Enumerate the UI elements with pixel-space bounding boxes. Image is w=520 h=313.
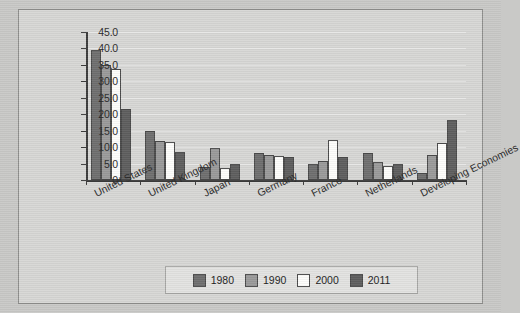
legend-item[interactable]: 1990 <box>245 274 286 287</box>
legend-label: 1990 <box>263 274 286 286</box>
bar-group <box>254 32 294 180</box>
legend-item[interactable]: 2000 <box>297 274 338 287</box>
x-axis-category-labels: United StatesUnited KingdomJapanGermanyF… <box>86 186 481 266</box>
bar-group <box>308 32 348 180</box>
y-tick-label: 40.0 <box>98 42 118 54</box>
legend-item[interactable]: 1980 <box>193 274 234 287</box>
bar <box>427 155 437 180</box>
bar <box>155 141 165 180</box>
chart-legend: 1980199020002011 <box>165 266 418 294</box>
bar-group <box>145 32 185 180</box>
y-tick-label: 20.0 <box>98 108 118 120</box>
legend-item[interactable]: 2011 <box>350 274 391 287</box>
y-tick-label: 35.0 <box>98 59 118 71</box>
y-tick-label: 15.0 <box>98 125 118 137</box>
bar <box>363 153 373 180</box>
y-tick-label: 45.0 <box>98 26 118 38</box>
bar <box>373 162 383 180</box>
legend-swatch <box>193 274 206 287</box>
bar <box>264 155 274 180</box>
x-tick-mark <box>466 180 467 185</box>
plot-area: 05.010.015.020.025.030.035.040.045.0 <box>86 32 466 180</box>
y-tick-label: 10.0 <box>98 141 118 153</box>
y-tick-label: 25.0 <box>98 92 118 104</box>
bar-group <box>417 32 457 180</box>
y-tick-label: 30.0 <box>98 75 118 87</box>
legend-swatch <box>350 274 363 287</box>
bar <box>318 161 328 180</box>
bar-group <box>363 32 403 180</box>
chart-figure: 05.010.015.020.025.030.035.040.045.0 Uni… <box>18 9 483 304</box>
legend-label: 2000 <box>315 274 338 286</box>
legend-label: 2011 <box>368 274 391 286</box>
legend-swatch <box>245 274 258 287</box>
legend-label: 1980 <box>211 274 234 286</box>
bar <box>254 153 264 180</box>
legend-swatch <box>297 274 310 287</box>
bar <box>230 164 240 180</box>
y-axis-tick-labels: 05.010.015.020.025.030.035.040.045.0 <box>78 32 118 180</box>
y-tick-label: 5.0 <box>104 158 118 170</box>
bar <box>308 164 318 180</box>
